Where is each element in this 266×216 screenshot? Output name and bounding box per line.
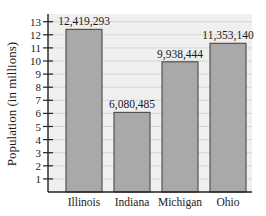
y-tick-label: 8	[36, 81, 42, 93]
y-tick-label: 12	[30, 29, 41, 41]
y-tick-label: 7	[36, 94, 42, 106]
x-tick-label: Ohio	[217, 196, 240, 208]
x-tick-label: Michigan	[158, 196, 202, 209]
x-axis: IllinoisIndianaMichiganOhio	[48, 192, 252, 209]
data-label: 9,938,444	[157, 48, 203, 61]
y-tick-label: 4	[36, 134, 42, 146]
bar-ohio	[210, 43, 246, 192]
y-tick-label: 11	[30, 42, 41, 54]
bar-michigan	[162, 62, 198, 192]
y-tick-label: 5	[36, 121, 42, 133]
y-tick-label: 10	[30, 55, 42, 67]
x-tick-label: Illinois	[68, 196, 101, 208]
y-tick-label: 6	[36, 107, 42, 119]
y-tick-label: 13	[30, 16, 42, 28]
x-tick-label: Indiana	[115, 196, 149, 208]
data-label: 6,080,485	[109, 98, 155, 111]
bar-illinois	[66, 29, 102, 192]
data-label: 12,419,293	[58, 15, 110, 28]
y-axis-label: Population (in millions)	[4, 29, 20, 179]
y-tick-label: 3	[36, 147, 42, 159]
data-label: 11,353,140	[202, 29, 254, 42]
bar-indiana	[114, 112, 150, 192]
y-tick-label: 9	[36, 68, 42, 80]
chart-canvas: 12,419,2936,080,4859,938,44411,353,140 1…	[0, 0, 266, 216]
y-tick-label: 2	[36, 160, 42, 172]
y-tick-label: 1	[36, 173, 42, 185]
